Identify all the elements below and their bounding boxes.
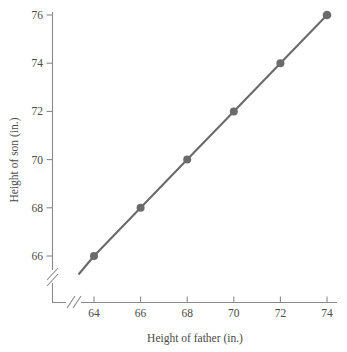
x-axis-ticks: [94, 297, 327, 303]
line-chart: 76 74 72 70 68 66 64 66 68 70 72 74: [0, 0, 347, 352]
chart-canvas: 76 74 72 70 68 66 64 66 68 70 72 74: [0, 0, 347, 352]
y-tick-label-66: 66: [32, 250, 44, 262]
x-axis-break-icon: [67, 296, 81, 308]
y-tick-label-74: 74: [32, 57, 44, 69]
x-tick-label-70: 70: [228, 307, 240, 319]
y-axis-title: Height of son (in.): [8, 117, 21, 202]
data-point: [323, 11, 332, 20]
y-axis-ticks: [47, 15, 53, 256]
y-tick-label-76: 76: [32, 9, 44, 21]
data-point: [183, 156, 191, 164]
x-tick-label-64: 64: [88, 307, 100, 319]
x-tick-label-68: 68: [181, 307, 193, 319]
x-tick-label-74: 74: [321, 307, 333, 319]
data-line: [79, 15, 328, 275]
y-tick-label-70: 70: [32, 154, 44, 166]
y-tick-label-68: 68: [32, 202, 44, 214]
data-point: [137, 204, 145, 212]
data-point: [90, 252, 98, 260]
data-point: [230, 107, 238, 115]
x-axis-title: Height of father (in.): [147, 332, 243, 345]
data-point: [276, 59, 284, 67]
y-tick-label-72: 72: [32, 105, 44, 117]
x-tick-label-66: 66: [135, 307, 147, 319]
x-tick-label-72: 72: [275, 307, 287, 319]
